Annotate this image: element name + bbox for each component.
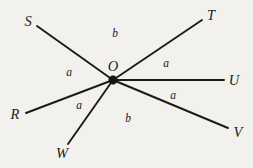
angle-ROS-label: a [66, 67, 72, 79]
angle-UOV-label: a [170, 90, 176, 102]
ray-OW [68, 80, 113, 144]
point-label-v: V [234, 125, 243, 140]
angle-SOT-label: b [112, 28, 118, 40]
ray-OT [113, 20, 202, 80]
vertex-group [109, 76, 117, 84]
point-label-s: S [24, 14, 31, 29]
point-label-u: U [229, 73, 239, 88]
rays-group [26, 20, 228, 144]
angle-TOU-label: a [163, 58, 169, 70]
angle-diagram-figure: STUVWRObaabaa [0, 0, 253, 168]
angle-WOR-label: a [76, 100, 82, 112]
diagram-canvas [0, 0, 253, 168]
point-label-t: T [207, 8, 215, 23]
angle-VOW-label: b [125, 113, 131, 125]
ray-OS [37, 26, 113, 80]
point-label-w: W [56, 146, 68, 161]
point-label-o: O [108, 59, 118, 74]
vertex-point-o [109, 76, 117, 84]
ray-OR [26, 80, 113, 113]
point-label-r: R [11, 107, 20, 122]
